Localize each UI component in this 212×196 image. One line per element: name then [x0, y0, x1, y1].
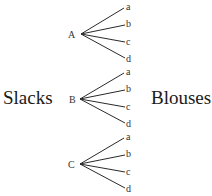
leaf-label: b [126, 18, 131, 29]
group-c: C a b c d [68, 131, 131, 194]
node-label: A [68, 29, 76, 40]
blouses-label: Blouses [151, 87, 211, 108]
slacks-label: Slacks [3, 87, 53, 108]
leaf-label: a [126, 1, 131, 12]
node-label: B [69, 94, 76, 105]
leaf-label: d [126, 53, 131, 64]
leaf-label: c [126, 166, 131, 177]
leaf-label: b [126, 148, 131, 159]
node-label: C [68, 159, 75, 170]
leaf-label: a [126, 66, 131, 77]
group-b: B a b c d [69, 66, 131, 129]
leaf-label: b [126, 83, 131, 94]
leaf-label: c [126, 101, 131, 112]
leaf-label: c [126, 36, 131, 47]
leaf-label: a [126, 131, 131, 142]
leaf-label: d [126, 183, 131, 194]
tree-diagram: Slacks Blouses A a b c d B a b c d C a b… [0, 0, 212, 196]
group-a: A a b c d [68, 1, 131, 64]
leaf-label: d [126, 118, 131, 129]
